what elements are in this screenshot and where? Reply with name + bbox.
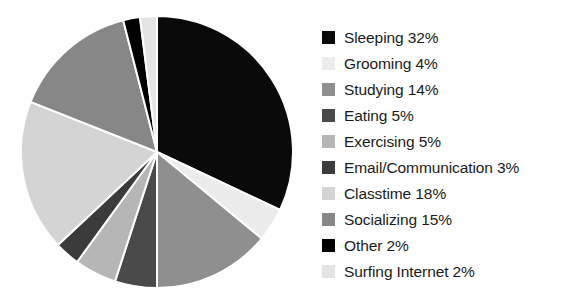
legend-item[interactable]: Surfing Internet 2% xyxy=(322,258,562,284)
legend-item[interactable]: Exercising 5% xyxy=(322,128,562,154)
legend-swatch-icon xyxy=(322,109,335,122)
legend-item-label: Studying 14% xyxy=(344,81,438,98)
legend-item[interactable]: Studying 14% xyxy=(322,76,562,102)
legend-item[interactable]: Grooming 4% xyxy=(322,50,562,76)
legend-item-label: Sleeping 32% xyxy=(344,29,438,46)
legend-item-label: Other 2% xyxy=(344,237,409,254)
legend-item-label: Email/Communication 3% xyxy=(344,159,519,176)
legend-swatch-icon xyxy=(322,213,335,226)
legend-swatch-icon xyxy=(322,187,335,200)
chart-legend: Sleeping 32%Grooming 4%Studying 14%Eatin… xyxy=(322,24,562,284)
legend-item[interactable]: Socializing 15% xyxy=(322,206,562,232)
legend-item[interactable]: Classtime 18% xyxy=(322,180,562,206)
legend-item-label: Classtime 18% xyxy=(344,185,446,202)
pie-chart-graphic: Sleeping 32%Grooming 4%Studying 14%Eatin… xyxy=(0,0,310,306)
legend-item-label: Exercising 5% xyxy=(344,133,441,150)
legend-item-label: Socializing 15% xyxy=(344,211,452,228)
legend-item[interactable]: Eating 5% xyxy=(322,102,562,128)
legend-swatch-icon xyxy=(322,135,335,148)
legend-item-label: Grooming 4% xyxy=(344,55,438,72)
legend-item-label: Eating 5% xyxy=(344,107,414,124)
legend-item-label: Surfing Internet 2% xyxy=(344,263,475,280)
legend-swatch-icon xyxy=(322,57,335,70)
legend-swatch-icon xyxy=(322,83,335,96)
legend-swatch-icon xyxy=(322,265,335,278)
pie-chart-page: Sleeping 32%Grooming 4%Studying 14%Eatin… xyxy=(0,0,567,306)
legend-item[interactable]: Sleeping 32% xyxy=(322,24,562,50)
legend-item[interactable]: Other 2% xyxy=(322,232,562,258)
legend-item[interactable]: Email/Communication 3% xyxy=(322,154,562,180)
legend-swatch-icon xyxy=(322,239,335,252)
legend-swatch-icon xyxy=(322,31,335,44)
legend-swatch-icon xyxy=(322,161,335,174)
pie-svg: Sleeping 32%Grooming 4%Studying 14%Eatin… xyxy=(0,0,310,306)
